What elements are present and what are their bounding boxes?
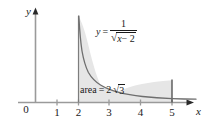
equation-fraction: 1 √ x− 2 bbox=[110, 19, 137, 45]
x-tick-label-2: 2 bbox=[72, 107, 86, 118]
y-axis-label: y bbox=[26, 6, 31, 17]
origin-tick-label: 0 bbox=[19, 104, 33, 115]
radicand-remainder: − 2 bbox=[122, 33, 135, 44]
math-figure: y x 0 1 2 3 4 5 y = 1 √ x− 2 area = 2 bbox=[0, 0, 209, 130]
equation-numerator: 1 bbox=[118, 19, 129, 30]
radical-group: √ x− 2 bbox=[111, 32, 136, 45]
x-axis-label: x bbox=[196, 106, 201, 117]
equation-denominator: √ x− 2 bbox=[110, 31, 137, 45]
radicand: x− 2 bbox=[116, 32, 136, 45]
area-coefficient: 2 bbox=[106, 85, 111, 95]
area-radicand: 3 bbox=[118, 84, 125, 97]
area-word: area bbox=[80, 85, 97, 95]
x-tick-label-3: 3 bbox=[102, 107, 116, 118]
equation-lhs: y bbox=[96, 27, 100, 37]
equation-equals-sign: = bbox=[102, 27, 108, 37]
x-tick-label-1: 1 bbox=[50, 107, 64, 118]
x-tick-label-4: 4 bbox=[134, 107, 148, 118]
x-axis-arrowhead bbox=[187, 99, 195, 105]
area-radical-group: √ 3 bbox=[113, 84, 125, 97]
equation-label: y = 1 √ x− 2 bbox=[96, 19, 137, 45]
area-equals-sign: = bbox=[99, 85, 105, 95]
area-annotation: area = 2 √ 3 bbox=[80, 84, 125, 97]
x-tick-label-5: 5 bbox=[165, 107, 179, 118]
y-axis-arrowhead bbox=[33, 8, 39, 15]
